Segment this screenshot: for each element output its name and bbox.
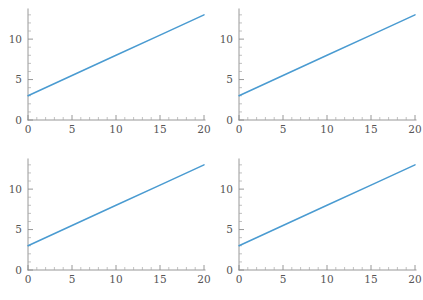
x-tick-label: 0: [25, 123, 32, 135]
y-tick-label: 0: [15, 264, 22, 276]
x-tick-label: 0: [236, 273, 243, 285]
x-tick-label: 10: [109, 123, 122, 135]
plot-bottom-left: 051015200510: [0, 150, 211, 300]
x-tick-label: 0: [236, 123, 243, 135]
plot-top-left: 051015200510: [0, 0, 211, 150]
y-tick-label: 5: [226, 73, 233, 85]
x-tick-label: 5: [280, 273, 287, 285]
x-tick-label: 0: [25, 273, 32, 285]
plot-top-right: 051015200510: [211, 0, 422, 150]
plot-bottom-right: 051015200510: [211, 150, 422, 300]
panel-bottom-right: 051015200510: [211, 150, 422, 300]
data-series-line: [239, 15, 415, 96]
x-tick-label: 15: [364, 123, 377, 135]
y-tick-label: 0: [15, 114, 22, 126]
x-tick-label: 5: [280, 123, 287, 135]
x-tick-label: 20: [197, 123, 210, 135]
x-tick-label: 15: [153, 123, 166, 135]
x-tick-label: 15: [364, 273, 377, 285]
x-tick-label: 15: [153, 273, 166, 285]
y-tick-label: 0: [226, 264, 233, 276]
x-tick-label: 10: [320, 273, 333, 285]
panel-top-left: 051015200510: [0, 0, 211, 150]
y-tick-label: 5: [226, 223, 233, 235]
x-tick-label: 10: [320, 123, 333, 135]
x-tick-label: 20: [408, 273, 421, 285]
x-tick-label: 5: [69, 273, 76, 285]
y-tick-label: 10: [9, 183, 22, 195]
x-tick-label: 5: [69, 123, 76, 135]
panel-top-right: 051015200510: [211, 0, 422, 150]
panel-bottom-left: 051015200510: [0, 150, 211, 300]
data-series-line: [239, 165, 415, 246]
y-tick-label: 10: [220, 183, 233, 195]
y-tick-label: 10: [9, 33, 22, 45]
data-series-line: [28, 15, 204, 96]
data-series-line: [28, 165, 204, 246]
x-tick-label: 20: [197, 273, 210, 285]
y-tick-label: 5: [15, 73, 22, 85]
y-tick-label: 5: [15, 223, 22, 235]
y-tick-label: 10: [220, 33, 233, 45]
x-tick-label: 10: [109, 273, 122, 285]
x-tick-label: 20: [408, 123, 421, 135]
y-tick-label: 0: [226, 114, 233, 126]
figure-canvas: 051015200510 051015200510 051015200510 0…: [0, 0, 423, 300]
